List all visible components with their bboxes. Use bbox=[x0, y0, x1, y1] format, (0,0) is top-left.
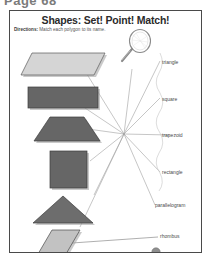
page-number: Page 68 bbox=[4, 0, 57, 8]
word-label-rectangle[interactable]: rectangle bbox=[162, 169, 183, 175]
rhombus-shape bbox=[38, 230, 82, 253]
word-label-triangle[interactable]: triangle bbox=[162, 59, 178, 65]
word-label-parallelogram[interactable]: parallelogram bbox=[155, 202, 185, 208]
connector-line-up bbox=[124, 69, 132, 134]
connector-line-rectangle bbox=[124, 134, 160, 172]
triangle-shape bbox=[33, 196, 95, 225]
rectangle-shape bbox=[28, 87, 100, 110]
magnifying-glass-icon bbox=[122, 30, 151, 62]
connector-line-square bbox=[124, 98, 160, 134]
connector-line-left-bottom bbox=[94, 134, 124, 195]
page-root: Page 68 Shapes: Set! Point! Match! Direc… bbox=[0, 0, 209, 265]
connector-line-rhombus-bottom bbox=[72, 237, 158, 243]
square-shape bbox=[50, 151, 89, 190]
trapezoid-shape bbox=[34, 117, 102, 143]
rhombus-dot bbox=[152, 248, 160, 253]
word-label-trapezoid[interactable]: trapezoid bbox=[162, 132, 183, 138]
connector-line-triangle bbox=[124, 61, 160, 134]
connector-line-parallelogram bbox=[124, 134, 155, 205]
word-label-square[interactable]: square bbox=[162, 96, 177, 102]
word-label-rhombus[interactable]: rhombus bbox=[160, 233, 179, 239]
worksheet-frame: Shapes: Set! Point! Match! Directions: M… bbox=[9, 10, 202, 253]
parallelogram-shape bbox=[21, 53, 107, 77]
